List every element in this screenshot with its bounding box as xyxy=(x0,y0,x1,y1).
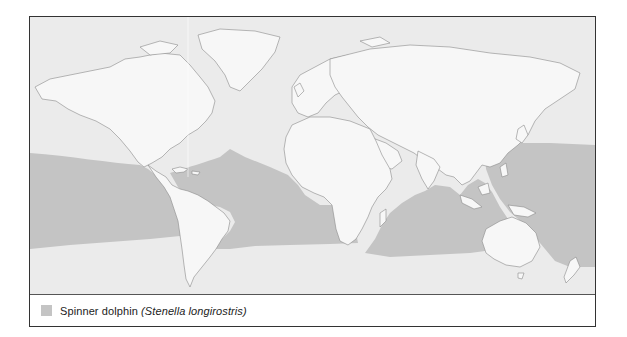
legend-swatch-spinner-dolphin xyxy=(41,305,52,316)
legend-label: Spinner dolphin (Stenella longirostris) xyxy=(60,305,247,317)
map-figure: Spinner dolphin (Stenella longirostris) xyxy=(29,16,596,327)
legend-scientific-name: (Stenella longirostris) xyxy=(141,305,247,317)
world-map-graphic xyxy=(30,17,595,294)
land-masses xyxy=(35,29,580,287)
legend-common-name: Spinner dolphin xyxy=(60,305,138,317)
world-map xyxy=(30,17,595,294)
legend: Spinner dolphin (Stenella longirostris) xyxy=(30,295,595,326)
